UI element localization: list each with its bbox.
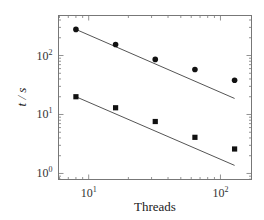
fit-line-squares [76, 97, 235, 166]
y-tick-labels: 100101102 [37, 48, 53, 181]
data-point-square [232, 146, 237, 151]
y-tick-label: 102 [37, 48, 53, 63]
chart: 101102 100101102 Threads t / s [0, 0, 264, 220]
x-tick-labels: 101102 [81, 185, 229, 200]
data-point-square [73, 94, 78, 99]
axis-ticks [59, 16, 252, 180]
data-point-circle [192, 67, 198, 73]
y-tick-label: 101 [37, 106, 53, 121]
fit-lines [76, 29, 235, 165]
data-point-square [192, 135, 197, 140]
y-tick-label: 100 [37, 165, 53, 180]
data-point-circle [73, 27, 79, 33]
data-point-circle [232, 77, 238, 83]
data-point-square [113, 105, 118, 110]
data-point-circle [152, 57, 158, 63]
data-point-square [153, 119, 158, 124]
x-tick-label: 102 [212, 185, 228, 200]
x-tick-label: 101 [81, 185, 97, 200]
x-axis-label: Threads [134, 199, 176, 214]
plot-frame [59, 16, 252, 180]
fit-line-circles [76, 29, 235, 98]
y-axis-label: t / s [14, 88, 29, 107]
data-point-circle [113, 42, 119, 48]
